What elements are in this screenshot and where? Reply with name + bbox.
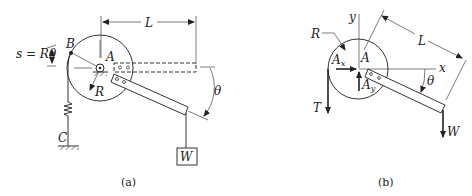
bar-rotated-a [111, 74, 188, 115]
label-y: y [348, 10, 356, 24]
label-B: B [65, 37, 75, 51]
label-A-b: A [360, 51, 370, 65]
label-R-a: R [94, 85, 104, 99]
point-B [69, 51, 73, 55]
figure-b: y x R A Ax Ay T θ L [310, 10, 466, 189]
label-L-a: L [144, 16, 153, 30]
label-arc-length: s = Rθ [16, 47, 57, 61]
label-T: T [313, 101, 322, 115]
label-theta-b: θ [427, 74, 435, 88]
caption-a: (a) [121, 176, 136, 189]
label-W-b: W [447, 125, 461, 139]
label-W-a: W [180, 150, 194, 164]
label-x: x [439, 61, 446, 75]
label-R-b: R [310, 27, 320, 41]
label-L-b: L [417, 34, 426, 48]
label-theta-a: θ [214, 84, 222, 98]
label-A-a: A [105, 50, 115, 64]
label-C: C [58, 131, 67, 145]
figure-a: L R A θ W [16, 16, 222, 189]
label-Ax: Ax [331, 53, 346, 68]
length-dimension-a: L [101, 16, 196, 64]
caption-b: (b) [378, 176, 394, 189]
